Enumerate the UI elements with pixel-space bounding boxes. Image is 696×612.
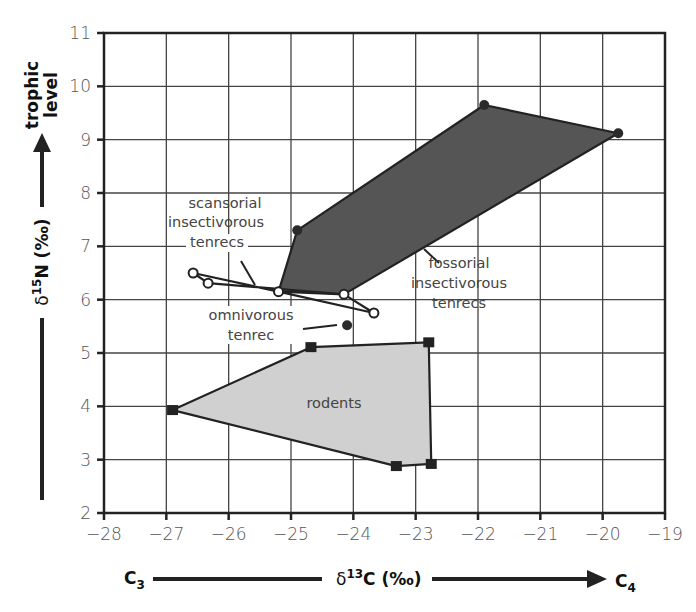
scansorial-label-1: scansorial xyxy=(189,195,262,211)
scansorial-label-2: insectivorous xyxy=(168,214,264,230)
rodents-point xyxy=(305,342,316,352)
x-tick-label: −22 xyxy=(460,524,496,544)
chart-canvas: −28−27−26−25−24−23−22−21−20−192345678910… xyxy=(0,0,696,612)
fossorial-insectivorous-tenrecs-point xyxy=(613,128,623,138)
arrow-right-icon xyxy=(587,570,607,588)
data-polygons xyxy=(173,105,619,466)
fossorial-label-1: fossorial xyxy=(429,255,490,271)
c4-label: C4 xyxy=(615,571,636,595)
rodents-point xyxy=(426,459,437,469)
scansorial-leader xyxy=(241,261,255,285)
svg-text:trophic: trophic xyxy=(22,61,42,129)
omnivorous-label-1: omnivorous xyxy=(209,307,294,323)
fossorial-insectivorous-tenrecs-point xyxy=(479,100,489,110)
rodents-point xyxy=(167,405,178,415)
x-tick-label: −21 xyxy=(522,524,558,544)
rodents-label: rodents xyxy=(306,395,361,411)
y-axis-title: δ15N (‰) xyxy=(30,218,52,305)
x-tick-label: −23 xyxy=(398,524,434,544)
x-axis-title: δ13C (‰) xyxy=(336,567,422,589)
scansorial-insectivorous-tenrecs-point xyxy=(274,287,283,296)
y-tick-label: 9 xyxy=(80,130,91,150)
x-tick-label: −19 xyxy=(647,524,683,544)
fossorial-label-3: tenrecs xyxy=(432,295,486,311)
scansorial-insectivorous-tenrecs-point xyxy=(204,279,213,288)
rodents-point xyxy=(391,461,402,471)
x-tick-label: −27 xyxy=(148,524,184,544)
y-tick-label: 3 xyxy=(80,450,91,470)
scansorial-insectivorous-tenrecs-point xyxy=(189,269,198,278)
omnivorous-tenrec-point xyxy=(342,320,352,330)
y-tick-label: 6 xyxy=(80,290,91,310)
x-tick-label: −26 xyxy=(211,524,247,544)
y-tick-label: 5 xyxy=(80,343,91,363)
x-tick-label: −28 xyxy=(86,524,122,544)
y-tick-label: 7 xyxy=(80,236,91,256)
x-tick-label: −24 xyxy=(335,524,371,544)
x-tick-label: −25 xyxy=(273,524,309,544)
scansorial-insectivorous-tenrecs-point xyxy=(369,309,378,318)
axis-ticks: −28−27−26−25−24−23−22−21−20−192345678910… xyxy=(69,23,683,544)
svg-text:δ15N (‰): δ15N (‰) xyxy=(30,218,52,305)
y-tick-label: 2 xyxy=(80,503,91,523)
omnivorous-leader xyxy=(303,325,337,329)
scansorial-insectivorous-tenrecs-point xyxy=(339,290,348,299)
y-tick-label: 8 xyxy=(80,183,91,203)
rodents-point xyxy=(423,337,434,347)
y-tick-label: 10 xyxy=(69,76,91,96)
scansorial-label-3b: tenrecs xyxy=(190,234,244,250)
arrow-up-icon xyxy=(33,133,51,152)
c3-label: C3 xyxy=(124,568,145,592)
x-axis-title-row: C3 δ13C (‰) C4 xyxy=(124,567,636,595)
fossorial-insectivorous-tenrecs-point xyxy=(292,225,302,235)
omnivorous-label-2: tenrec xyxy=(228,327,274,343)
x-tick-label: −20 xyxy=(585,524,621,544)
trophic-level-label: trophic level xyxy=(22,61,61,129)
rodents-polygon xyxy=(173,342,432,466)
fossorial-label-2: insectivorous xyxy=(411,275,507,291)
y-tick-label: 4 xyxy=(80,396,91,416)
y-tick-label: 11 xyxy=(69,23,91,43)
svg-text:level: level xyxy=(41,72,61,118)
y-axis-arrow xyxy=(33,133,51,500)
